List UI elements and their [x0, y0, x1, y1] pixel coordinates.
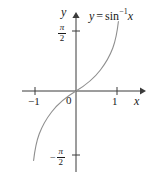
- x-tick-label-neg1: −1: [28, 96, 40, 107]
- y-tick-neg-pi-over-2-fraction: π 2: [57, 147, 65, 167]
- y-axis-label: y: [61, 6, 66, 18]
- y-tick-label-pi-over-2: π 2: [57, 23, 66, 43]
- curve-equation-label: y=sin−1x: [89, 9, 133, 22]
- equation-function-name: sin: [105, 9, 119, 23]
- equation-exponent: −1: [119, 7, 128, 16]
- y-tick-neg-pi-over-2-denominator: 2: [57, 158, 64, 167]
- graph-canvas: [0, 0, 160, 178]
- x-axis-label: x: [134, 95, 139, 107]
- equation-argument: x: [128, 9, 133, 23]
- x-tick-label-pos1: 1: [112, 96, 118, 107]
- y-tick-pi-over-2-numerator: π: [59, 23, 66, 32]
- y-tick-neg-pi-over-2-sign: −: [50, 152, 56, 163]
- y-tick-neg-pi-over-2-numerator: π: [57, 147, 64, 156]
- equation-equals-sign: =: [94, 9, 105, 23]
- y-tick-pi-over-2-fraction: π 2: [58, 23, 66, 43]
- y-axis-arrowhead: [72, 12, 79, 18]
- x-axis-arrowhead: [140, 87, 146, 94]
- origin-label: 0: [66, 95, 72, 106]
- y-tick-pi-over-2-denominator: 2: [59, 34, 66, 43]
- arcsine-function-graph: y x −1 0 1 π 2 − π 2 y=sin−1x: [0, 0, 160, 178]
- y-tick-label-neg-pi-over-2: − π 2: [50, 147, 65, 167]
